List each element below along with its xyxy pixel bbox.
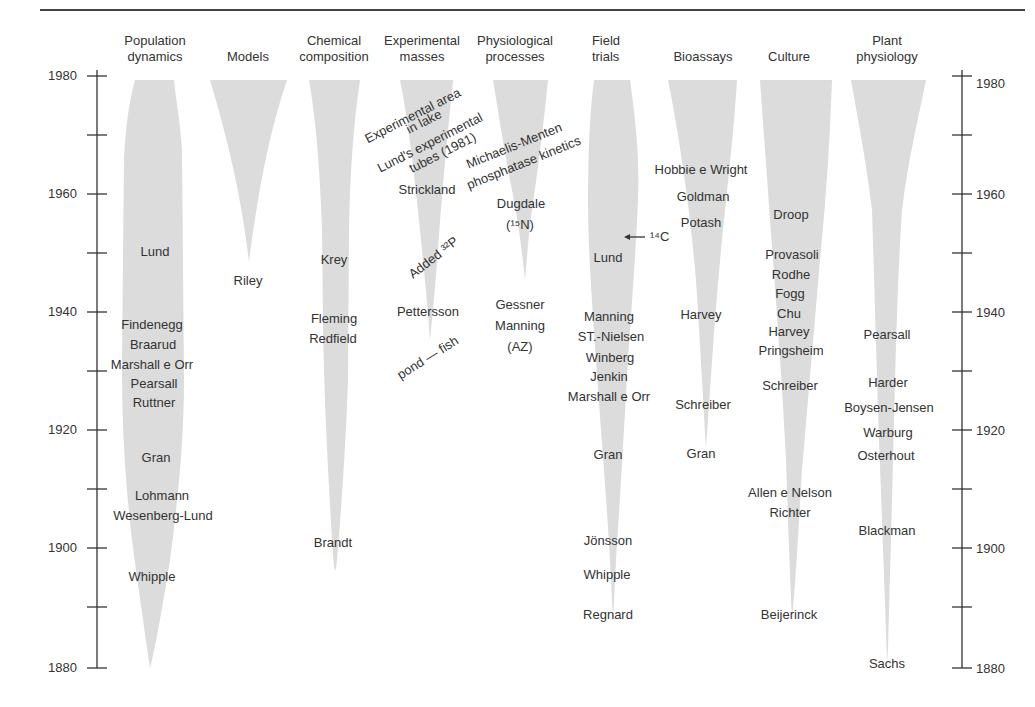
entry-label: Chu	[777, 306, 801, 321]
entry-label: Riley	[234, 273, 263, 288]
entry-label: Braarud	[130, 337, 176, 352]
entry-label: Pearsall	[131, 376, 178, 391]
entry-label: Strickland	[398, 182, 455, 197]
entry-label: Rodhe	[772, 267, 810, 282]
spindle-bioassays	[668, 80, 737, 448]
entry-label: Warburg	[863, 425, 912, 440]
y-label-1880-right: 1880	[976, 662, 1005, 676]
entry-label: Whipple	[584, 567, 631, 582]
y-label-1980-left: 1980	[48, 69, 77, 83]
entry-label: Allen e Nelson	[748, 485, 832, 500]
entry-label: Dugdale	[497, 196, 545, 211]
y-label-1900-left: 1900	[48, 541, 77, 555]
y-label-1940-left: 1940	[48, 305, 77, 319]
entry-label: Brandt	[314, 535, 352, 550]
spindle-models	[210, 80, 287, 262]
entry-label: Gessner	[495, 297, 544, 312]
entry-label: Sachs	[869, 656, 905, 671]
spindle-physiological-processes	[493, 80, 548, 280]
left-y-axis	[87, 70, 107, 668]
y-label-1980-right: 1980	[976, 77, 1005, 91]
y-label-1920-right: 1920	[976, 424, 1005, 438]
entry-label: Goldman	[677, 189, 730, 204]
entry-label: Gran	[594, 447, 623, 462]
entry-label: Marshall e Orr	[111, 357, 193, 372]
entry-label: Beijerinck	[761, 607, 817, 622]
entry-label: Jönsson	[584, 533, 632, 548]
entry-label: Blackman	[858, 523, 915, 538]
entry-label: Krey	[321, 252, 348, 267]
spindle-plant-physiology	[851, 80, 926, 662]
y-label-1960-right: 1960	[976, 188, 1005, 202]
entry-label: Manning	[495, 318, 545, 333]
y-label-1880-left: 1880	[48, 661, 77, 675]
entry-label: Richter	[769, 505, 810, 520]
entry-label: Fleming	[311, 311, 357, 326]
entry-label: Regnard	[583, 607, 633, 622]
c14-annotation: ¹⁴C	[650, 229, 669, 244]
entry-label: Gran	[142, 450, 171, 465]
y-label-1940-right: 1940	[976, 306, 1005, 320]
entry-label: Droop	[773, 207, 808, 222]
entry-label: Wesenberg-Lund	[113, 508, 213, 523]
entry-label: Harvey	[680, 307, 721, 322]
entry-label: Lohmann	[135, 488, 189, 503]
entry-label: (AZ)	[507, 339, 532, 354]
right-y-axis	[952, 70, 972, 668]
entry-label: Pringsheim	[758, 343, 823, 358]
entry-label: Fogg	[775, 286, 805, 301]
entry-label: Provasoli	[765, 247, 818, 262]
y-label-1900-right: 1900	[976, 542, 1005, 556]
entry-label: Winberg	[586, 350, 634, 365]
entry-label: Marshall e Orr	[568, 389, 650, 404]
entry-label: Harder	[868, 375, 908, 390]
entry-label: Osterhout	[857, 448, 914, 463]
entry-label: Pettersson	[397, 304, 459, 319]
entry-label: ST.-Nielsen	[578, 329, 644, 344]
entry-label: Lund	[594, 250, 623, 265]
entry-label: Ruttner	[133, 395, 176, 410]
entry-label: Whipple	[129, 569, 176, 584]
entry-label: Gran	[687, 446, 716, 461]
y-label-1960-left: 1960	[48, 187, 77, 201]
entry-label: Schreiber	[675, 397, 731, 412]
entry-label: Potash	[681, 215, 721, 230]
entry-label: Schreiber	[762, 378, 818, 393]
entry-label: Boysen-Jensen	[844, 400, 934, 415]
entry-label: Pearsall	[864, 327, 911, 342]
entry-label: Jenkin	[590, 369, 628, 384]
entry-label: Manning	[584, 309, 634, 324]
entry-label: Lund	[141, 244, 170, 259]
entry-label: Harvey	[768, 324, 809, 339]
entry-label: Hobbie e Wright	[655, 162, 748, 177]
entry-label: (¹⁵N)	[506, 217, 534, 232]
entry-label: Redfield	[309, 331, 357, 346]
y-label-1920-left: 1920	[48, 423, 77, 437]
entry-label: Findenegg	[121, 317, 182, 332]
